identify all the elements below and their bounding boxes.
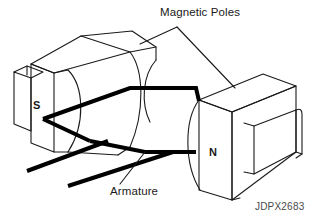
magnetic-poles-figure: Magnetic Poles Armature S N JDPX2683 [0,0,316,224]
pole-south-top-face [31,36,130,73]
pole-north-label: N [209,146,217,158]
pole-north-top-face [199,74,296,112]
armature-lead-lower [68,152,173,186]
pole-south-curved-face-top [54,70,68,73]
pole-south-shoe-inner-curve [144,60,156,122]
armature-label: Armature [110,185,158,197]
pole-north-side-block-lip-lower [296,152,302,154]
pole-north-side-block-edge-b [244,172,254,174]
figure-code: JDPX2683 [255,201,304,212]
pole-north-side-block [254,110,296,174]
armature-lead-upper [27,141,108,171]
pole-south-label: S [33,99,40,111]
pole-south-assembly [14,31,156,155]
pole-south-side-block [14,72,31,131]
pole-south-side-block-top [14,66,43,78]
magnetic-poles-leader-right [177,27,235,88]
pole-north-curved-face [188,100,200,190]
armature-upper-conductor [43,88,199,119]
pole-north-side-block-lip [296,109,302,158]
magnetic-poles-leader-left [140,27,177,44]
armature-coil [27,88,199,186]
magnetic-poles-label: Magnetic Poles [160,6,240,18]
pole-north-assembly [188,74,302,200]
armature-left-v-bend [43,119,90,141]
pole-north-side-block-edge-a [244,123,254,126]
pole-south-shoe-right-curve [130,52,141,147]
pole-north-right-face [232,86,296,200]
